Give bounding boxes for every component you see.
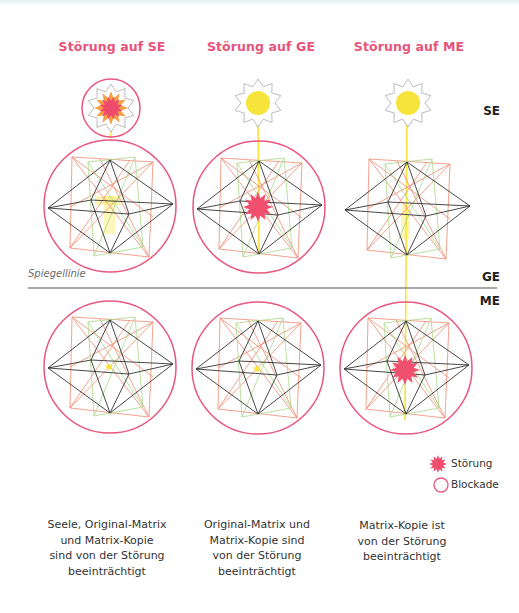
header-disturbance-se: Störung auf SE — [27, 39, 197, 54]
col1-soul — [82, 79, 140, 138]
caption-line: von der Störung — [317, 534, 487, 550]
level-label-me: ME — [470, 294, 500, 308]
legend-disturbance-icon — [429, 455, 447, 473]
level-label-ge: GE — [470, 270, 500, 284]
col2-matrix-copy — [192, 302, 324, 434]
col2-soul — [235, 79, 281, 252]
disturbance-icon — [243, 192, 273, 222]
col1-matrix-copy — [44, 301, 176, 433]
caption-line: beeinträchtigt — [22, 564, 192, 580]
header-disturbance-me: Störung auf ME — [324, 39, 494, 54]
caption-col1: Seele, Original-Matrix und Matrix-Kopie … — [22, 517, 192, 580]
col2-original-matrix — [193, 141, 325, 273]
caption-line: beeinträchtigt — [172, 564, 342, 580]
header-disturbance-ge: Störung auf GE — [176, 39, 346, 54]
caption-line: Seele, Original-Matrix — [22, 517, 192, 533]
caption-line: Matrix-Kopie ist — [317, 518, 487, 534]
caption-col3: Matrix-Kopie ist von der Störung beeintr… — [317, 518, 487, 565]
col3-original-matrix — [345, 159, 470, 259]
col1-original-matrix — [44, 140, 176, 272]
legend-disturbance-label: Störung — [451, 457, 493, 469]
legend-blockade-label: Blockade — [451, 478, 499, 490]
caption-line: sind von der Störung — [22, 548, 192, 564]
caption-line: und Matrix-Kopie — [22, 533, 192, 549]
caption-line: beeinträchtigt — [317, 549, 487, 565]
level-label-se: SE — [470, 104, 500, 118]
legend-blockade-icon — [434, 478, 448, 492]
col3-matrix-copy — [340, 302, 472, 434]
mirror-line-label: Spiegellinie — [28, 268, 86, 279]
